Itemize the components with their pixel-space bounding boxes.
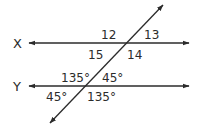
- transversal-line: [50, 5, 163, 123]
- angle-label-14: 14: [127, 48, 142, 62]
- parallel-lines-diagram: X Y 12 13 15 14 135° 45° 45° 135°: [0, 0, 198, 132]
- angle-label-13: 13: [144, 28, 159, 42]
- angle-label-12: 12: [101, 28, 116, 42]
- line-y-label: Y: [12, 79, 21, 94]
- angle-label-45-top-right: 45°: [102, 71, 123, 85]
- angle-label-15: 15: [88, 48, 103, 62]
- line-x-label: X: [13, 36, 22, 51]
- angle-label-45-bottom-left: 45°: [46, 90, 67, 104]
- angle-label-135-bottom-right: 135°: [87, 90, 116, 104]
- angle-label-135-top-left: 135°: [61, 71, 90, 85]
